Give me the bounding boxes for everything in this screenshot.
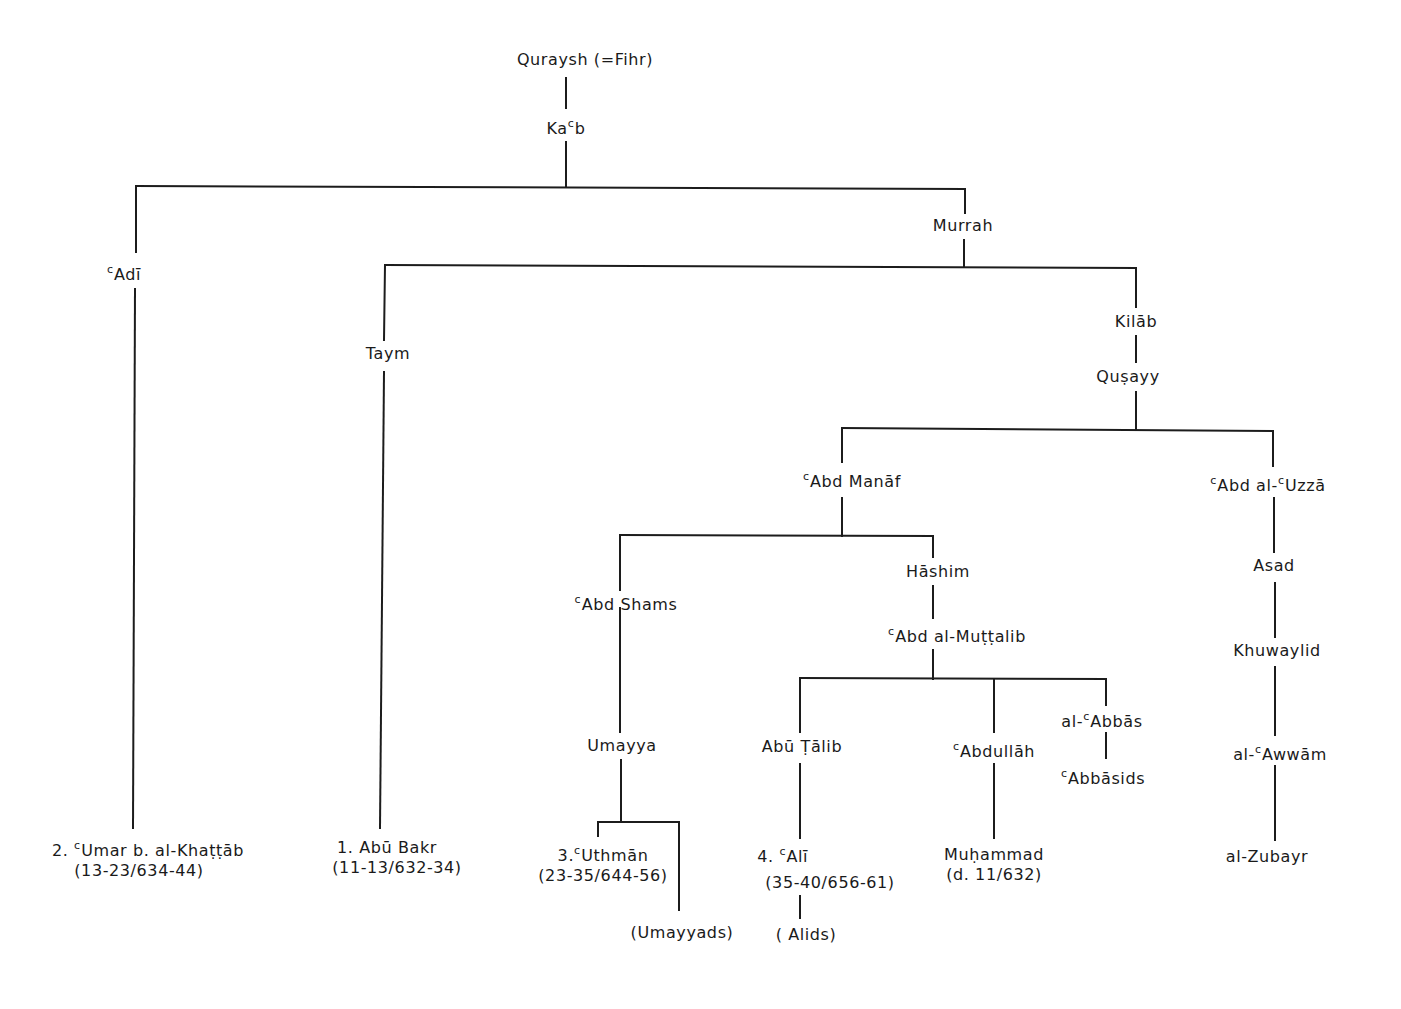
- node-abd-al-uzza: cAbd al-cUzzā: [1210, 471, 1325, 496]
- node-label: (Umayyads): [631, 923, 734, 942]
- node-uthman: 3.cUthmān (23-35/644-56): [538, 841, 667, 886]
- node-abd-manaf: cAbd Manāf: [803, 467, 901, 492]
- ayn-mark: c: [1083, 710, 1089, 723]
- node-kilab: Kilāb: [1115, 312, 1157, 332]
- node-abdullah: cAbdullāh: [953, 737, 1035, 762]
- ayn-mark: c: [1278, 474, 1284, 487]
- node-label: Hāshim: [906, 562, 970, 581]
- ayn-mark: c: [1255, 743, 1261, 756]
- node-label: Abū Ṭālib: [762, 737, 842, 756]
- node-label: Abbāsids: [1068, 769, 1145, 788]
- node-abbasids: cAbbāsids: [1061, 764, 1145, 789]
- node-label: ( Alids): [776, 925, 837, 944]
- node-label: Murrah: [933, 216, 993, 235]
- node-abd-al-muttalib: cAbd al-Muṭṭalib: [888, 622, 1026, 647]
- node-label: b: [575, 119, 586, 138]
- caliph-number: 1.: [337, 838, 353, 857]
- node-muhammad: Muḥammad (d. 11/632): [944, 845, 1044, 885]
- node-label: Abū Bakr: [359, 838, 437, 857]
- node-al-zubayr: al-Zubayr: [1226, 847, 1309, 867]
- node-adi: cAdī: [107, 260, 141, 285]
- node-label: Ka: [546, 119, 567, 138]
- caliph-number: 2.: [52, 841, 68, 860]
- node-label: Abd Shams: [582, 595, 678, 614]
- node-label: Abd al-: [1217, 476, 1278, 495]
- ayn-mark: c: [74, 839, 80, 852]
- ayn-mark: c: [953, 740, 959, 753]
- node-label: Awwām: [1262, 745, 1327, 764]
- ayn-mark: c: [568, 117, 574, 130]
- node-label: Adī: [114, 265, 141, 284]
- node-umayyads: (Umayyads): [631, 923, 734, 943]
- reign-dates: (23-35/644-56): [538, 866, 667, 886]
- node-label: Khuwaylid: [1233, 641, 1321, 660]
- node-label: Muḥammad: [944, 845, 1044, 864]
- node-quraysh: Quraysh (=Fihr): [517, 50, 653, 70]
- node-asad: Asad: [1253, 556, 1295, 576]
- ayn-mark: c: [803, 470, 809, 483]
- node-label: Umayya: [587, 736, 656, 755]
- node-umar: 2. cUmar b. al-Khaṭṭāb (13-23/634-44): [52, 836, 244, 881]
- ayn-mark: c: [888, 625, 894, 638]
- reign-dates: (35-40/656-61): [765, 873, 894, 893]
- ayn-mark: c: [107, 263, 113, 276]
- node-label: Alī: [786, 847, 808, 866]
- ayn-mark: c: [779, 845, 785, 858]
- caliph-number: 3.: [558, 846, 574, 865]
- node-al-abbas: al-cAbbās: [1061, 707, 1142, 732]
- node-qusayy: Quṣayy: [1096, 367, 1159, 387]
- reign-dates: (13-23/634-44): [34, 861, 244, 881]
- node-label: Uzzā: [1285, 476, 1326, 495]
- ayn-mark: c: [1061, 767, 1067, 780]
- ayn-mark: c: [575, 593, 581, 606]
- caliph-number: 4.: [757, 847, 773, 866]
- node-label: Abd al-Muṭṭalib: [895, 627, 1026, 646]
- node-hashim: Hāshim: [906, 562, 970, 582]
- node-label: Uthmān: [581, 846, 648, 865]
- node-label: al-: [1233, 745, 1255, 764]
- node-alids: ( Alids): [776, 925, 837, 945]
- node-label: Abbās: [1090, 712, 1142, 731]
- node-umayya: Umayya: [587, 736, 656, 756]
- reign-dates: (11-13/632-34): [332, 858, 461, 878]
- node-label: al-Zubayr: [1226, 847, 1309, 866]
- ayn-mark: c: [1210, 474, 1216, 487]
- node-murrah: Murrah: [933, 216, 993, 236]
- node-taym: Taym: [366, 344, 410, 364]
- node-label: Umar b. al-Khaṭṭāb: [81, 841, 244, 860]
- node-abu-talib: Abū Ṭālib: [762, 737, 842, 757]
- node-label: Kilāb: [1115, 312, 1157, 331]
- node-label: Quraysh (=Fihr): [517, 50, 653, 69]
- node-label: al-: [1061, 712, 1083, 731]
- node-khuwaylid: Khuwaylid: [1233, 641, 1321, 661]
- node-label: Quṣayy: [1096, 367, 1159, 386]
- death-date: (d. 11/632): [944, 865, 1044, 885]
- node-abd-shams: cAbd Shams: [575, 590, 678, 615]
- node-label: Abd Manāf: [810, 472, 901, 491]
- node-al-awwam: al-cAwwām: [1233, 740, 1327, 765]
- node-label: Abdullāh: [960, 742, 1035, 761]
- node-ali: 4. cAlī (35-40/656-61): [765, 842, 894, 893]
- node-abu-bakr: 1. Abū Bakr (11-13/632-34): [312, 838, 461, 878]
- node-kab: Kacb: [546, 114, 585, 139]
- node-label: Asad: [1253, 556, 1295, 575]
- ayn-mark: c: [574, 844, 580, 857]
- node-label: Taym: [366, 344, 410, 363]
